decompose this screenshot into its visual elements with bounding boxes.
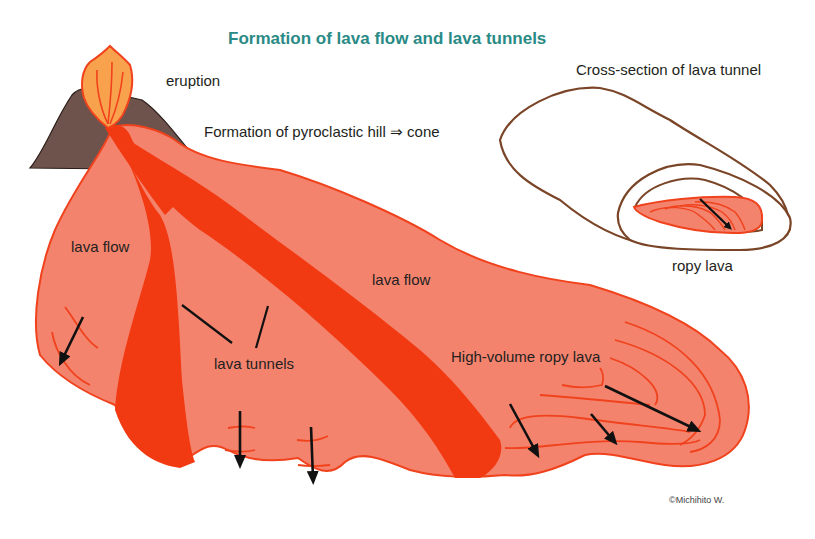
label-cross-section: Cross-section of lava tunnel <box>576 62 761 77</box>
label-lava-flow-center: lava flow <box>372 272 430 287</box>
label-ropy-lava: ropy lava <box>672 258 733 273</box>
label-lava-flow-left: lava flow <box>71 239 129 254</box>
cross-section-inset <box>500 88 791 250</box>
label-pyroclastic-hill: Formation of pyroclastic hill ⇒ cone <box>204 124 440 139</box>
credit-text: ©Michihito W. <box>669 496 724 505</box>
diagram-canvas: Formation of lava flow and lava tunnels … <box>0 0 815 539</box>
label-lava-tunnels: lava tunnels <box>214 356 294 371</box>
label-high-volume-ropy-lava: High-volume ropy lava <box>451 349 600 364</box>
label-eruption: eruption <box>166 73 220 88</box>
diagram-title: Formation of lava flow and lava tunnels <box>228 30 546 47</box>
